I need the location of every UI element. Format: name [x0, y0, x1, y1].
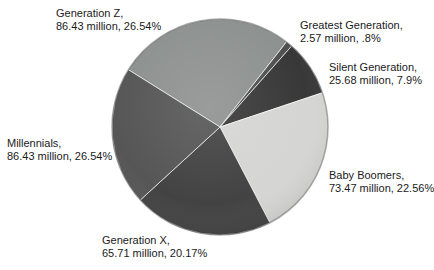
- slice-label-value: 25.68 million, 7.9%: [329, 74, 422, 87]
- slice-label-name: Silent Generation,: [329, 61, 422, 74]
- slice-label-name: Generation X,: [102, 234, 207, 247]
- slice-label-name: Generation Z,: [56, 7, 161, 20]
- slice-label-generation-z: Generation Z, 86.43 million, 26.54%: [56, 7, 161, 33]
- slice-label-name: Greatest Generation,: [300, 19, 403, 32]
- slice-label-greatest-generation: Greatest Generation, 2.57 million, .8%: [300, 19, 403, 45]
- slice-label-generation-x: Generation X, 65.71 million, 20.17%: [102, 234, 207, 260]
- slice-label-value: 86.43 million, 26.54%: [56, 20, 161, 33]
- slice-label-value: 86.43 million, 26.54%: [7, 150, 112, 163]
- slice-label-name: Millennials,: [7, 137, 112, 150]
- slice-label-millennials: Millennials, 86.43 million, 26.54%: [7, 137, 112, 163]
- slice-label-name: Baby Boomers,: [329, 169, 434, 182]
- pie-chart: Generation Z, 86.43 million, 26.54% Grea…: [0, 0, 434, 270]
- slice-label-silent-generation: Silent Generation, 25.68 million, 7.9%: [329, 61, 422, 87]
- slice-label-value: 73.47 million, 22.56%: [329, 182, 434, 195]
- slice-label-value: 65.71 million, 20.17%: [102, 247, 207, 260]
- slice-label-baby-boomers: Baby Boomers, 73.47 million, 22.56%: [329, 169, 434, 195]
- slice-label-value: 2.57 million, .8%: [300, 32, 403, 45]
- pie-sheen-overlay: [112, 19, 328, 235]
